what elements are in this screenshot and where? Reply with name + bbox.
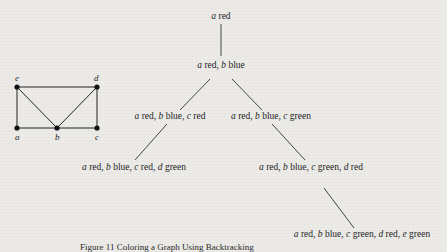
tree-node-d-green: a red, b blue, c red, d green (82, 162, 186, 172)
tree-node-d-red: a red, b blue, c green, d red (259, 162, 363, 172)
tree-node-c-red: a red, b blue, c red (135, 111, 206, 121)
tree-node-level1: a red, b blue (197, 60, 245, 70)
tree-node-e-green: a red, b blue, c green, d red, e green (294, 229, 430, 239)
vertex-label-b: b (55, 132, 60, 142)
diagram-lines (0, 0, 447, 252)
vertex-label-a: a (15, 132, 20, 142)
vertex-label-c: c (95, 132, 99, 142)
tree-node-c-green: a red, b blue, c green (231, 111, 311, 121)
vertex-label-d: d (94, 73, 99, 83)
figure-caption: Figure 11 Coloring a Graph Using Backtra… (80, 242, 254, 252)
vertex-label-e: e (15, 73, 19, 83)
tree-node-root: a red (211, 11, 230, 21)
